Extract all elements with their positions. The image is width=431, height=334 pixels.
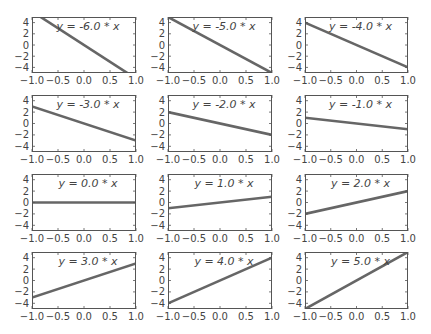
y-tick-label: −4 [14,62,29,73]
subplot-grid-figure: −1.0−0.50.00.51.0420−2−4y = -6.0 * x−1.0… [0,0,431,334]
x-tick-label: 0.5 [374,75,390,86]
y-tick-label: 2 [159,186,165,197]
y-tick-label: 0 [296,40,302,51]
y-tick-label: −2 [287,208,302,219]
x-tick-label: 0.0 [212,154,228,165]
y-tick-label: 0 [23,40,29,51]
x-tick-label: 1.0 [128,233,144,244]
y-tick-label: 4 [159,252,165,263]
y-tick-label: 2 [296,28,302,39]
x-tick-label: 0.0 [349,154,365,165]
subplot: −1.0−0.50.00.51.0420−2−4y = -2.0 * x [150,95,280,165]
y-tick-label: −4 [150,141,165,152]
x-tick-label: 1.0 [400,311,416,322]
y-tick-label: 0 [296,275,302,286]
subplot: −1.0−0.50.00.51.0420−2−4y = 0.0 * x [14,174,144,244]
data-line [168,197,272,208]
x-tick-label: 0.5 [374,233,390,244]
x-tick-label: 1.0 [128,154,144,165]
equation-annotation: y = 0.0 * x [57,177,118,190]
subplot: −1.0−0.50.00.51.0420−2−4y = 3.0 * x [14,252,144,322]
subplot: −1.0−0.50.00.51.0420−2−4y = -4.0 * x [287,17,416,86]
y-tick-label: 4 [296,95,302,106]
x-tick-label: 1.0 [264,154,280,165]
x-tick-label: −1.0 [20,233,44,244]
x-tick-label: −0.5 [182,311,206,322]
x-tick-label: 1.0 [128,311,144,322]
x-tick-label: −1.0 [293,233,317,244]
y-tick-label: 4 [159,95,165,106]
y-tick-label: −4 [14,298,29,309]
x-tick-label: −0.5 [46,75,70,86]
y-tick-label: 0 [23,118,29,129]
y-tick-label: −2 [287,286,302,297]
figure-canvas: −1.0−0.50.00.51.0420−2−4y = -6.0 * x−1.0… [0,0,431,334]
x-tick-label: 0.0 [212,75,228,86]
y-tick-label: −2 [14,129,29,140]
y-tick-label: −2 [287,129,302,140]
y-tick-label: 0 [23,197,29,208]
y-tick-label: −4 [14,220,29,231]
x-tick-label: 0.5 [374,311,390,322]
y-tick-label: −2 [14,208,29,219]
y-tick-label: −2 [150,286,165,297]
y-tick-label: 0 [23,275,29,286]
y-tick-label: 4 [23,252,29,263]
y-tick-label: 2 [23,186,29,197]
x-tick-label: 0.0 [76,154,92,165]
equation-annotation: y = -2.0 * x [191,98,256,111]
y-tick-label: −4 [150,62,165,73]
x-tick-label: −0.5 [319,311,343,322]
x-tick-label: −0.5 [46,311,70,322]
y-tick-label: 0 [296,197,302,208]
y-tick-label: −2 [150,51,165,62]
x-tick-label: 1.0 [264,233,280,244]
y-tick-label: 4 [159,17,165,28]
x-tick-label: −0.5 [319,154,343,165]
x-tick-label: −1.0 [20,154,44,165]
x-tick-label: −1.0 [20,75,44,86]
y-tick-label: 2 [159,107,165,118]
y-tick-label: 0 [159,197,165,208]
y-tick-label: 4 [296,174,302,185]
x-tick-label: −1.0 [156,154,180,165]
x-tick-label: 0.0 [349,75,365,86]
data-line [305,191,408,214]
y-tick-label: −4 [150,220,165,231]
subplot: −1.0−0.50.00.51.0420−2−4y = -5.0 * x [150,17,280,86]
y-tick-label: −4 [150,298,165,309]
y-tick-label: 4 [23,17,29,28]
x-tick-label: 0.5 [102,233,118,244]
x-tick-label: −1.0 [293,154,317,165]
equation-annotation: y = 2.0 * x [330,177,391,190]
y-tick-label: 4 [159,174,165,185]
y-tick-label: 2 [23,264,29,275]
x-tick-label: 0.5 [238,311,254,322]
y-tick-label: 2 [296,107,302,118]
x-tick-label: 0.0 [212,311,228,322]
x-tick-label: −0.5 [319,233,343,244]
equation-annotation: y = 3.0 * x [57,255,118,268]
x-tick-label: −1.0 [156,233,180,244]
x-tick-label: −0.5 [319,75,343,86]
x-tick-label: 0.0 [349,233,365,244]
x-tick-label: 1.0 [400,233,416,244]
x-tick-label: 1.0 [264,75,280,86]
y-tick-label: −2 [150,129,165,140]
x-tick-label: 1.0 [264,311,280,322]
data-line [32,263,136,297]
x-tick-label: −0.5 [182,75,206,86]
x-tick-label: 1.0 [128,75,144,86]
y-tick-label: −4 [287,220,302,231]
y-tick-label: 2 [159,264,165,275]
y-tick-label: 0 [159,275,165,286]
subplot: −1.0−0.50.00.51.0420−2−4y = 5.0 * x [287,252,416,322]
y-tick-label: 4 [296,252,302,263]
y-tick-label: −4 [287,298,302,309]
data-line [305,118,408,129]
y-tick-label: 2 [296,264,302,275]
y-tick-label: 0 [296,118,302,129]
x-tick-label: −1.0 [293,311,317,322]
subplot: −1.0−0.50.00.51.0420−2−4y = 2.0 * x [287,174,416,244]
x-tick-label: 0.5 [374,154,390,165]
